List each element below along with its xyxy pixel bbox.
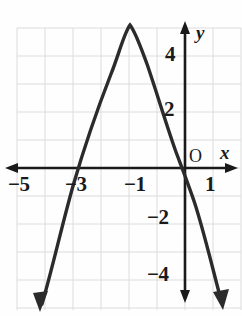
x-tick-label-neg3: −3 bbox=[65, 174, 86, 195]
y-tick-label-4: 4 bbox=[165, 44, 175, 65]
x-axis bbox=[5, 163, 238, 173]
origin-label: O bbox=[189, 147, 202, 165]
graph-figure: −5 −3 −1 1 4 2 −2 −4 y x O bbox=[0, 0, 242, 316]
x-tick-label-neg1: −1 bbox=[124, 174, 145, 195]
coordinate-plane-svg bbox=[0, 0, 242, 316]
y-axis-label: y bbox=[196, 23, 204, 42]
y-tick-label-neg4: −4 bbox=[147, 264, 168, 285]
x-tick-label-neg5: −5 bbox=[8, 174, 29, 195]
y-tick-label-neg2: −2 bbox=[147, 207, 168, 228]
x-axis-label: x bbox=[220, 143, 230, 162]
x-tick-label-1: 1 bbox=[205, 174, 215, 195]
y-tick-label-2: 2 bbox=[164, 99, 174, 120]
